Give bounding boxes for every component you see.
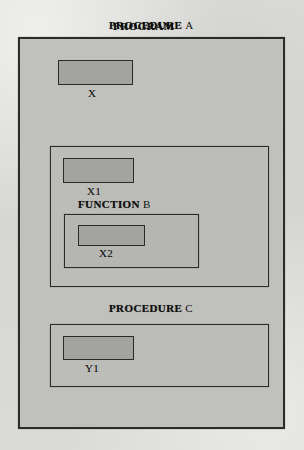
variable-label-x: X <box>88 87 96 99</box>
diagram-canvas: PROGRAM X PROCEDUREA X1 FUNCTIONB X2 PR <box>0 0 304 450</box>
variable-box-x <box>58 60 133 85</box>
procedure-c-scope-box: Y1 <box>50 324 269 387</box>
variable-box-x2 <box>78 225 145 246</box>
procedure-a-scope-box: X1 FUNCTIONB X2 <box>50 146 269 287</box>
function-b-title: FUNCTIONB <box>78 198 150 210</box>
procedure-c-identifier: C <box>185 302 193 314</box>
variable-label-x1: X1 <box>87 185 101 197</box>
procedure-a-keyword: PROCEDURE <box>109 19 182 31</box>
procedure-a-identifier: A <box>185 19 193 31</box>
procedure-a-title: PROCEDUREA <box>109 19 193 31</box>
function-b-keyword: FUNCTION <box>78 198 140 210</box>
variable-box-y1 <box>63 336 134 360</box>
variable-label-x2: X2 <box>99 247 113 259</box>
program-scope-box: X PROCEDUREA X1 FUNCTIONB X2 PROCEDUREC <box>18 37 285 429</box>
variable-label-y1: Y1 <box>85 362 99 374</box>
function-b-scope-box: X2 <box>64 214 199 268</box>
variable-box-x1 <box>63 158 134 183</box>
procedure-c-title: PROCEDUREC <box>109 302 193 314</box>
procedure-c-keyword: PROCEDURE <box>109 302 182 314</box>
function-b-identifier: B <box>143 198 151 210</box>
